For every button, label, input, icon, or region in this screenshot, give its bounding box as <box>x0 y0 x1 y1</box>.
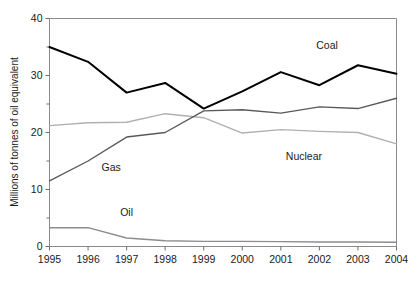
series-line-oil <box>50 228 397 243</box>
x-tick-label: 1997 <box>115 253 139 265</box>
line-chart-figure: 1995199619971998199920002001200220032004… <box>0 0 419 282</box>
x-tick-label: 1998 <box>153 253 177 265</box>
y-tick-label: 20 <box>31 126 43 138</box>
y-axis-title-text: Millions of tonnes of oil equivalent <box>9 57 20 207</box>
data-series-group <box>50 47 397 242</box>
y-axis-tick-labels: 010203040 <box>31 12 43 252</box>
x-axis-tick-labels: 1995199619971998199920002001200220032004 <box>38 253 409 265</box>
series-label-gas: Gas <box>102 161 121 173</box>
axis-ticks <box>46 19 397 251</box>
y-tick-label: 40 <box>31 12 43 24</box>
series-inline-labels: CoalGasNuclearOil <box>102 39 338 218</box>
series-line-coal <box>50 47 397 109</box>
y-axis-title: Millions of tonnes of oil equivalent <box>9 57 20 207</box>
x-tick-label: 1996 <box>76 253 100 265</box>
chart-canvas: 1995199619971998199920002001200220032004… <box>0 0 419 282</box>
x-tick-label: 2003 <box>346 253 370 265</box>
y-tick-label: 10 <box>31 183 43 195</box>
series-label-oil: Oil <box>120 206 133 218</box>
x-tick-label: 2002 <box>308 253 332 265</box>
series-line-nuclear <box>50 114 397 144</box>
x-tick-label: 2001 <box>269 253 293 265</box>
y-tick-label: 30 <box>31 69 43 81</box>
x-tick-label: 2004 <box>385 253 409 265</box>
series-label-coal: Coal <box>316 39 338 51</box>
y-tick-label: 0 <box>37 240 43 252</box>
x-tick-label: 2000 <box>231 253 255 265</box>
series-label-nuclear: Nuclear <box>286 150 323 162</box>
x-tick-label: 1999 <box>192 253 216 265</box>
x-tick-label: 1995 <box>38 253 62 265</box>
